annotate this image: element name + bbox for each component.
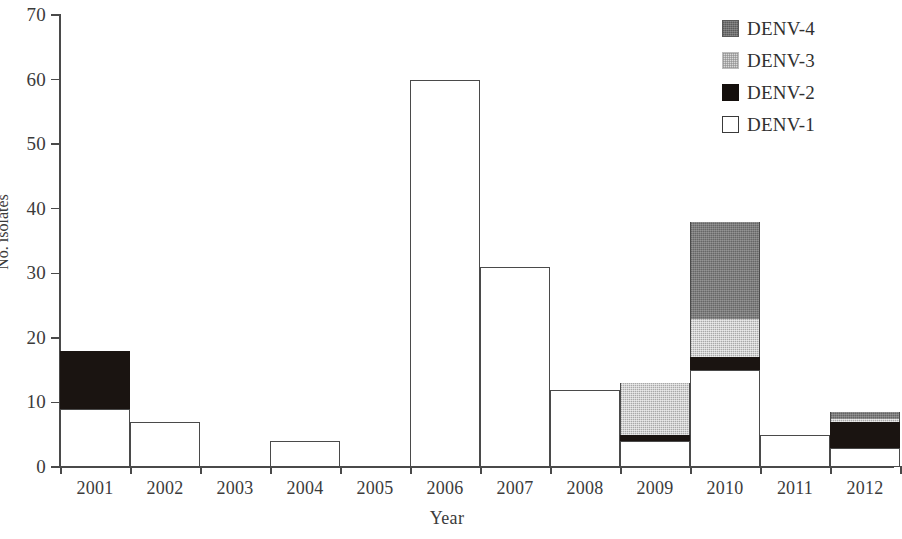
y-tick-label: 20 bbox=[0, 328, 46, 347]
bar-segment-2002-denv-1[interactable] bbox=[130, 422, 200, 467]
legend-item-label: DENV-3 bbox=[747, 51, 815, 70]
y-tick-label: 0 bbox=[0, 457, 46, 476]
x-tick-mark bbox=[480, 466, 482, 474]
bar-2007[interactable] bbox=[480, 267, 550, 467]
bar-segment-2009-denv-3[interactable] bbox=[620, 383, 690, 435]
y-tick-mark bbox=[51, 143, 60, 144]
bar-segment-2007-denv-1[interactable] bbox=[480, 267, 550, 467]
x-tick-mark bbox=[200, 466, 202, 474]
x-axis-title: Year bbox=[0, 508, 894, 529]
bar-segment-2012-denv-4[interactable] bbox=[830, 412, 900, 418]
x-tick-label: 2009 bbox=[620, 478, 690, 498]
x-tick-label: 2006 bbox=[410, 478, 480, 498]
x-tick-mark bbox=[760, 466, 762, 474]
denv2-swatch-icon bbox=[722, 84, 739, 101]
x-tick-mark bbox=[690, 466, 692, 474]
legend-item-denv-2[interactable]: DENV-2 bbox=[722, 76, 815, 108]
x-tick-mark bbox=[60, 466, 62, 474]
x-tick-label: 2007 bbox=[480, 478, 550, 498]
y-tick-label: 50 bbox=[0, 134, 46, 153]
x-tick-mark bbox=[830, 466, 832, 474]
y-tick-mark bbox=[51, 466, 60, 467]
y-tick-label: 70 bbox=[0, 5, 46, 24]
bar-2010[interactable] bbox=[690, 222, 760, 467]
legend-item-label: DENV-1 bbox=[747, 115, 815, 134]
bar-segment-2012-denv-3[interactable] bbox=[830, 419, 900, 422]
bar-segment-2012-denv-2[interactable] bbox=[830, 422, 900, 448]
x-tick-mark bbox=[900, 466, 902, 474]
x-tick-label: 2010 bbox=[690, 478, 760, 498]
bar-segment-2006-denv-1[interactable] bbox=[410, 80, 480, 467]
x-tick-label: 2001 bbox=[60, 478, 130, 498]
bar-2009[interactable] bbox=[620, 383, 690, 467]
y-tick-mark bbox=[51, 402, 60, 403]
bar-2001[interactable] bbox=[60, 351, 130, 467]
y-tick-mark bbox=[51, 273, 60, 274]
y-tick-label: 60 bbox=[0, 70, 46, 89]
denv3-swatch-icon bbox=[722, 52, 739, 69]
bar-segment-2001-denv-2[interactable] bbox=[60, 351, 130, 409]
denv4-swatch-icon bbox=[722, 20, 739, 37]
bar-2004[interactable] bbox=[270, 441, 340, 467]
y-tick-mark bbox=[51, 14, 60, 15]
bar-segment-2010-denv-1[interactable] bbox=[690, 370, 760, 467]
bar-segment-2009-denv-2[interactable] bbox=[620, 435, 690, 441]
bar-segment-2001-denv-1[interactable] bbox=[60, 409, 130, 467]
bar-segment-2012-denv-1[interactable] bbox=[830, 448, 900, 467]
x-tick-label: 2003 bbox=[200, 478, 270, 498]
x-tick-mark bbox=[270, 466, 272, 474]
bar-2008[interactable] bbox=[550, 390, 620, 467]
x-tick-label: 2004 bbox=[270, 478, 340, 498]
legend-item-denv-3[interactable]: DENV-3 bbox=[722, 44, 815, 76]
x-tick-mark bbox=[550, 466, 552, 474]
x-tick-mark bbox=[620, 466, 622, 474]
x-tick-mark bbox=[340, 466, 342, 474]
bar-segment-2010-denv-3[interactable] bbox=[690, 319, 760, 358]
x-tick-label: 2002 bbox=[130, 478, 200, 498]
bar-2011[interactable] bbox=[760, 435, 830, 467]
x-tick-label: 2011 bbox=[760, 478, 830, 498]
bar-2012[interactable] bbox=[830, 412, 900, 467]
y-tick-mark bbox=[51, 208, 60, 209]
bar-segment-2010-denv-2[interactable] bbox=[690, 357, 760, 370]
bar-segment-2004-denv-1[interactable] bbox=[270, 441, 340, 467]
x-tick-label: 2005 bbox=[340, 478, 410, 498]
legend-item-denv-4[interactable]: DENV-4 bbox=[722, 12, 815, 44]
bar-segment-2010-denv-4[interactable] bbox=[690, 222, 760, 319]
bar-segment-2008-denv-1[interactable] bbox=[550, 390, 620, 467]
legend-item-label: DENV-4 bbox=[747, 19, 815, 38]
y-tick-label: 10 bbox=[0, 392, 46, 411]
y-tick-mark bbox=[51, 337, 60, 338]
legend-item-denv-1[interactable]: DENV-1 bbox=[722, 108, 815, 140]
x-tick-mark bbox=[130, 466, 132, 474]
x-tick-mark bbox=[410, 466, 412, 474]
denv1-swatch-icon bbox=[722, 116, 739, 133]
bar-2006[interactable] bbox=[410, 80, 480, 467]
legend-item-label: DENV-2 bbox=[747, 83, 815, 102]
bar-segment-2011-denv-1[interactable] bbox=[760, 435, 830, 467]
bar-segment-2009-denv-1[interactable] bbox=[620, 441, 690, 467]
x-tick-label: 2012 bbox=[830, 478, 900, 498]
bar-2002[interactable] bbox=[130, 422, 200, 467]
chart-legend: DENV-4DENV-3DENV-2DENV-1 bbox=[722, 12, 815, 140]
x-tick-label: 2008 bbox=[550, 478, 620, 498]
y-axis-title: No. isolates bbox=[0, 194, 12, 270]
y-tick-mark bbox=[51, 79, 60, 80]
